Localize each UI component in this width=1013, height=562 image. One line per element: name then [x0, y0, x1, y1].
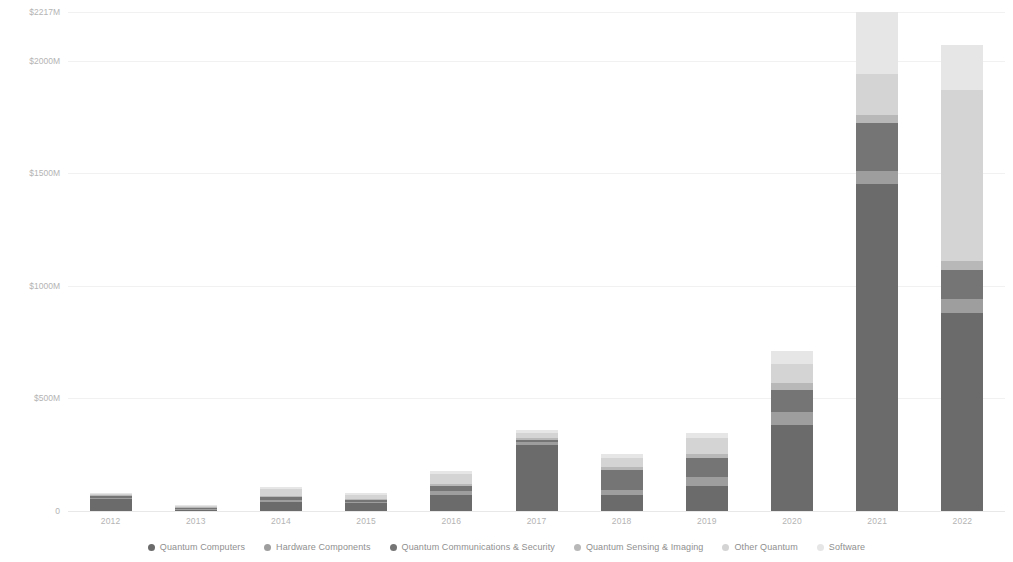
legend-swatch-icon [148, 544, 155, 551]
plot-area [68, 12, 1005, 511]
bar-segment-hardware-components[interactable] [941, 299, 983, 313]
bar-segment-quantum-sensing-imaging[interactable] [771, 383, 813, 390]
bar-segment-quantum-sensing-imaging[interactable] [941, 261, 983, 270]
y-axis-tick-label: $1500M [0, 168, 60, 178]
bar-segment-quantum-communications-security[interactable] [941, 270, 983, 299]
legend-item-label: Hardware Components [276, 542, 370, 552]
chart-legend: Quantum ComputersHardware ComponentsQuan… [0, 542, 1013, 552]
legend-item-quantum-computers[interactable]: Quantum Computers [148, 542, 245, 552]
bar-2017[interactable] [516, 430, 558, 511]
y-axis-tick-label: $2000M [0, 56, 60, 66]
bar-segment-quantum-computers[interactable] [771, 425, 813, 511]
bar-segment-hardware-components[interactable] [856, 171, 898, 183]
bar-2019[interactable] [686, 433, 728, 511]
bar-segment-quantum-computers[interactable] [345, 503, 387, 511]
bar-segment-quantum-computers[interactable] [260, 502, 302, 511]
bar-segment-quantum-computers[interactable] [686, 486, 728, 511]
bar-segment-hardware-components[interactable] [686, 477, 728, 486]
y-axis-tick-label: $500M [0, 393, 60, 403]
legend-item-label: Quantum Communications & Security [402, 542, 555, 552]
y-axis-tick-label: $2217M [0, 7, 60, 17]
bar-segment-software[interactable] [941, 45, 983, 90]
bar-segment-quantum-computers[interactable] [856, 184, 898, 511]
x-axis-tick-label-2019: 2019 [677, 516, 737, 527]
bar-segment-other-quantum[interactable] [771, 364, 813, 384]
legend-item-software[interactable]: Software [817, 542, 865, 552]
bar-segment-hardware-components[interactable] [771, 412, 813, 426]
x-axis-tick-label-2021: 2021 [847, 516, 907, 527]
bar-segment-quantum-communications-security[interactable] [856, 123, 898, 171]
legend-item-quantum-communications-security[interactable]: Quantum Communications & Security [390, 542, 555, 552]
legend-item-label: Software [829, 542, 865, 552]
bar-segment-quantum-sensing-imaging[interactable] [856, 115, 898, 123]
x-axis-tick-label-2022: 2022 [932, 516, 992, 527]
x-axis-tick-label-2016: 2016 [421, 516, 481, 527]
bar-segment-other-quantum[interactable] [430, 474, 472, 484]
bar-2020[interactable] [771, 351, 813, 511]
bar-segment-other-quantum[interactable] [686, 438, 728, 454]
bar-2012[interactable] [90, 493, 132, 511]
x-axis-tick-label-2013: 2013 [166, 516, 226, 527]
legend-swatch-icon [722, 544, 729, 551]
bar-2014[interactable] [260, 487, 302, 511]
bar-segment-quantum-computers[interactable] [601, 495, 643, 511]
bar-2016[interactable] [430, 471, 472, 511]
legend-swatch-icon [817, 544, 824, 551]
bar-segment-quantum-computers[interactable] [516, 445, 558, 511]
bar-segment-software[interactable] [856, 12, 898, 74]
bar-2018[interactable] [601, 454, 643, 511]
bar-segment-other-quantum[interactable] [601, 458, 643, 467]
x-axis-tick-label-2014: 2014 [251, 516, 311, 527]
legend-swatch-icon [264, 544, 271, 551]
legend-item-quantum-sensing-imaging[interactable]: Quantum Sensing & Imaging [574, 542, 704, 552]
legend-item-label: Quantum Sensing & Imaging [586, 542, 704, 552]
y-axis-tick-label: 0 [0, 506, 60, 516]
x-axis-tick-label-2018: 2018 [592, 516, 652, 527]
bar-segment-other-quantum[interactable] [260, 489, 302, 496]
bar-2022[interactable] [941, 45, 983, 511]
x-axis-tick-label-2020: 2020 [762, 516, 822, 527]
y-axis-tick-label: $1000M [0, 281, 60, 291]
stacked-bar-chart: 0$500M$1000M$1500M$2000M$2217M 201220132… [0, 0, 1013, 562]
bar-segment-other-quantum[interactable] [941, 90, 983, 261]
x-axis-tick-label-2015: 2015 [336, 516, 396, 527]
legend-item-label: Other Quantum [734, 542, 797, 552]
legend-swatch-icon [390, 544, 397, 551]
bar-segment-quantum-computers[interactable] [430, 495, 472, 511]
x-axis-baseline [68, 511, 1005, 512]
bar-segment-quantum-communications-security[interactable] [601, 470, 643, 490]
legend-swatch-icon [574, 544, 581, 551]
x-axis-tick-label-2017: 2017 [507, 516, 567, 527]
bar-segment-quantum-communications-security[interactable] [686, 458, 728, 476]
bar-segment-software[interactable] [771, 351, 813, 363]
bar-2015[interactable] [345, 493, 387, 511]
x-axis-tick-label-2012: 2012 [81, 516, 141, 527]
bar-segment-other-quantum[interactable] [856, 74, 898, 115]
legend-item-hardware-components[interactable]: Hardware Components [264, 542, 370, 552]
bar-segment-quantum-computers[interactable] [941, 313, 983, 511]
bar-segment-quantum-computers[interactable] [90, 499, 132, 511]
legend-item-label: Quantum Computers [160, 542, 245, 552]
bar-segment-quantum-communications-security[interactable] [771, 390, 813, 411]
legend-item-other-quantum[interactable]: Other Quantum [722, 542, 797, 552]
bar-2021[interactable] [856, 12, 898, 511]
